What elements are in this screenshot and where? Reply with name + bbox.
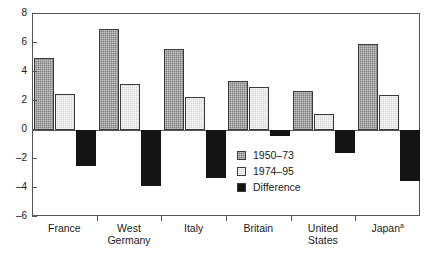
bar <box>99 29 119 131</box>
x-axis-tick-mark <box>291 216 292 221</box>
x-axis-tick-label: Italy <box>161 222 226 234</box>
legend-label: Difference <box>253 182 301 193</box>
y-axis-tick-mark <box>32 216 37 217</box>
legend-item: 1974–95 <box>237 164 301 178</box>
x-axis-tick-mark <box>97 216 98 221</box>
x-axis-tick-mark <box>161 216 162 221</box>
bar-group <box>98 14 163 215</box>
bar <box>379 95 399 130</box>
y-axis-tick-label: –4 <box>5 182 27 192</box>
bar-group <box>162 14 227 215</box>
bar <box>228 81 248 130</box>
bar <box>249 87 269 131</box>
y-axis-tick-label: 8 <box>5 8 27 18</box>
y-axis-tick-mark <box>32 158 37 159</box>
x-axis-tick-mark <box>355 216 356 221</box>
x-axis-tick-label: Britain <box>226 222 291 234</box>
y-axis-tick-mark <box>32 129 37 130</box>
y-axis-tick-label: 2 <box>5 95 27 105</box>
legend-label: 1974–95 <box>253 166 294 177</box>
bar <box>120 84 140 130</box>
y-axis-tick-label: –6 <box>5 211 27 221</box>
y-axis: 86420–2–4–6 <box>0 0 27 253</box>
y-axis-tick-mark <box>32 42 37 43</box>
x-axis-tick-mark <box>226 216 227 221</box>
y-axis-tick-mark <box>32 71 37 72</box>
x-axis-tick-label: UnitedStates <box>291 222 356 246</box>
bar <box>185 97 205 130</box>
bar <box>314 114 334 130</box>
bar <box>76 130 96 166</box>
legend-swatch-icon <box>237 151 246 160</box>
legend-label: 1950–73 <box>253 150 294 161</box>
x-axis-tick-label: Japana <box>355 222 420 234</box>
bar <box>293 91 313 130</box>
y-axis-tick-label: –2 <box>5 153 27 163</box>
bar-group <box>356 14 421 215</box>
bar <box>55 94 75 130</box>
bar <box>206 130 226 178</box>
bar <box>400 130 420 181</box>
y-axis-tick-label: 0 <box>5 124 27 134</box>
bar <box>358 44 378 130</box>
legend-item: Difference <box>237 180 301 194</box>
y-axis-tick-mark <box>32 187 37 188</box>
bar-group <box>292 14 357 215</box>
legend-item: 1950–73 <box>237 148 301 162</box>
legend-swatch-icon <box>237 183 246 192</box>
bar <box>270 130 290 136</box>
chart-legend: 1950–731974–95Difference <box>237 148 301 194</box>
y-axis-tick-label: 6 <box>5 37 27 47</box>
x-axis-tick-label: WestGermany <box>97 222 162 246</box>
y-axis-tick-mark <box>32 100 37 101</box>
bar <box>141 130 161 186</box>
plot-area <box>32 13 420 216</box>
bar <box>164 49 184 130</box>
chart-figure: 86420–2–4–6 FranceWestGermanyItalyBritai… <box>0 0 432 253</box>
bar <box>34 58 54 131</box>
x-axis-tick-label: France <box>32 222 97 234</box>
bar <box>335 130 355 153</box>
bar-group <box>33 14 98 215</box>
y-axis-tick-label: 4 <box>5 66 27 76</box>
legend-swatch-icon <box>237 167 246 176</box>
